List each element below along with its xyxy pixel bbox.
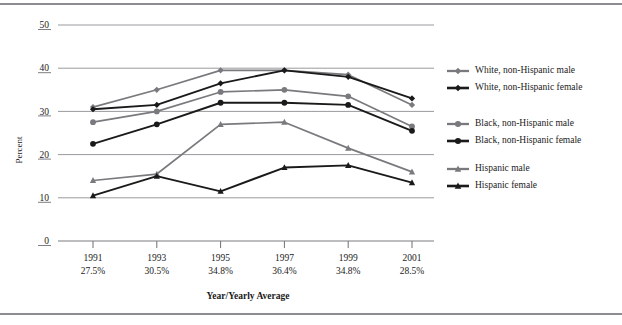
circle-marker <box>154 109 160 115</box>
x-tick-label-year-1991: 1991 <box>84 253 103 263</box>
x-axis-title: Year/Yearly Average <box>207 291 290 301</box>
x-tick-label-year-2001: 2001 <box>403 253 422 263</box>
y-tick-label-10: 10 <box>40 193 50 203</box>
diamond-marker <box>218 80 224 86</box>
series-5 <box>90 162 415 198</box>
circle-marker <box>282 87 288 93</box>
circle-marker <box>154 121 160 127</box>
diamond-marker <box>154 87 160 93</box>
y-tick-label-50: 50 <box>40 20 50 30</box>
x-axis-group <box>93 241 412 248</box>
legend-group: White, non-Hispanic maleWhite, non-Hispa… <box>447 65 582 190</box>
legend-entry-2[interactable]: Black, non-Hispanic male <box>447 118 574 128</box>
circle-marker <box>409 128 415 134</box>
circle-marker <box>455 138 461 144</box>
series-4 <box>90 119 415 183</box>
series-line-2 <box>93 90 412 127</box>
legend-label-5: Hispanic female <box>475 180 537 190</box>
x-tick-label-average-1993: 30.5% <box>145 266 170 276</box>
y-tick-label-30: 30 <box>40 107 50 117</box>
x-tick-label-year-1997: 1997 <box>275 253 294 263</box>
circle-marker <box>345 93 351 99</box>
x-tick-label-year-1995: 1995 <box>211 253 230 263</box>
series-0 <box>90 67 415 110</box>
legend-label-4: Hispanic male <box>475 163 530 173</box>
legend-label-0: White, non-Hispanic male <box>475 65 575 75</box>
x-tick-labels-group: 199127.5%199330.5%199534.8%199736.4%1999… <box>81 253 425 276</box>
diamond-marker <box>455 68 462 75</box>
diamond-marker <box>455 85 462 92</box>
series-line-5 <box>93 165 412 195</box>
legend-label-1: White, non-Hispanic female <box>475 82 582 92</box>
x-tick-label-average-1991: 27.5% <box>81 266 106 276</box>
y-axis-title: Percent <box>14 136 24 163</box>
legend-label-2: Black, non-Hispanic male <box>475 118 574 128</box>
x-tick-label-year-1993: 1993 <box>147 253 166 263</box>
x-tick-label-year-1999: 1999 <box>339 253 358 263</box>
circle-marker <box>90 119 96 125</box>
x-tick-label-average-1997: 36.4% <box>272 266 297 276</box>
chart-figure: 01020304050 199127.5%199330.5%199534.8%1… <box>0 0 622 325</box>
diamond-marker <box>154 102 160 108</box>
y-tick-labels-group: 01020304050 <box>38 20 51 246</box>
legend-entry-3[interactable]: Black, non-Hispanic female <box>447 135 581 145</box>
circle-marker <box>345 102 351 108</box>
legend-entry-5[interactable]: Hispanic female <box>447 180 537 190</box>
series-line-0 <box>93 70 412 107</box>
circle-marker <box>218 100 224 106</box>
legend-entry-0[interactable]: White, non-Hispanic male <box>447 65 575 75</box>
line-chart: 01020304050 199127.5%199330.5%199534.8%1… <box>0 0 622 325</box>
x-tick-label-average-2001: 28.5% <box>400 266 425 276</box>
x-tick-label-average-1995: 34.8% <box>208 266 233 276</box>
plot-area: 01020304050 199127.5%199330.5%199534.8%1… <box>0 0 622 325</box>
legend-label-3: Black, non-Hispanic female <box>475 135 581 145</box>
diamond-marker <box>409 95 415 101</box>
circle-marker <box>90 141 96 147</box>
y-tick-label-40: 40 <box>40 63 50 73</box>
y-tick-label-20: 20 <box>40 150 50 160</box>
series-line-4 <box>93 122 412 180</box>
x-tick-label-average-1999: 34.8% <box>336 266 361 276</box>
legend-entry-1[interactable]: White, non-Hispanic female <box>447 82 582 92</box>
circle-marker <box>455 121 461 127</box>
diamond-marker <box>409 102 415 108</box>
y-tick-label-0: 0 <box>44 236 49 246</box>
series-lines-group <box>90 67 415 198</box>
circle-marker <box>218 89 224 95</box>
legend-entry-4[interactable]: Hispanic male <box>447 163 530 173</box>
gridlines-group <box>58 25 434 241</box>
circle-marker <box>282 100 288 106</box>
